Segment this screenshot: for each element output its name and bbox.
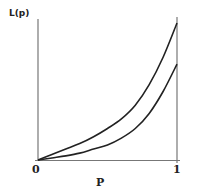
x-tick-1: 1 xyxy=(173,163,181,176)
y-axis-label: L(p) xyxy=(9,8,29,18)
lower-curve xyxy=(38,64,177,160)
x-tick-0: 0 xyxy=(32,163,40,176)
x-axis-label: P xyxy=(96,176,104,189)
upper-curve xyxy=(38,23,177,160)
plot-area xyxy=(0,0,199,190)
lorenz-chart: L(p) 0 1 P xyxy=(0,0,199,190)
